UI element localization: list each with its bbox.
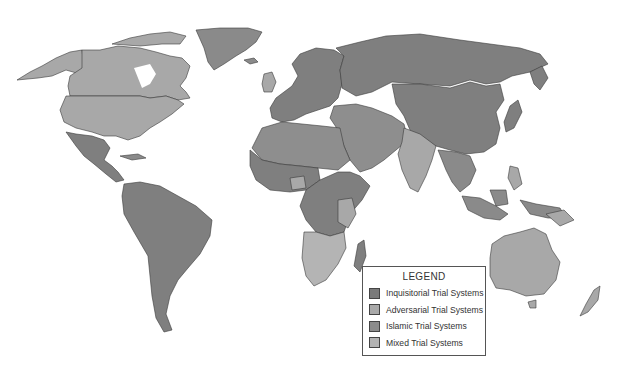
legend-item-islamic: Islamic Trial Systems (369, 318, 479, 335)
region-nigeria (290, 176, 306, 190)
region-southeast-asia (438, 150, 476, 192)
region-australia (490, 228, 560, 296)
legend-item-adversarial: Adversarial Trial Systems (369, 302, 479, 319)
region-united-kingdom (262, 72, 276, 92)
world-map (0, 0, 641, 369)
legend-label: Adversarial Trial Systems (386, 305, 483, 315)
legend-box: LEGEND Inquisitorial Trial Systems Adver… (362, 266, 486, 356)
region-south-america (122, 182, 212, 332)
region-philippines (508, 166, 522, 190)
legend-label: Islamic Trial Systems (386, 321, 467, 331)
region-united-states (60, 96, 184, 140)
swatch-islamic (369, 321, 380, 332)
legend-label: Mixed Trial Systems (386, 338, 463, 348)
region-japan (504, 100, 522, 132)
legend-item-inquisitorial: Inquisitorial Trial Systems (369, 285, 479, 302)
legend-label: Inquisitorial Trial Systems (386, 288, 483, 298)
region-iceland (244, 58, 258, 64)
region-canada (68, 46, 190, 100)
region-caribbean (120, 154, 146, 160)
swatch-mixed (369, 337, 380, 348)
legend-item-mixed: Mixed Trial Systems (369, 335, 479, 352)
swatch-adversarial (369, 304, 380, 315)
region-arctic-islands (112, 32, 186, 46)
region-new-zealand (580, 286, 600, 316)
swatch-inquisitorial (369, 288, 380, 299)
region-east-africa (338, 198, 356, 228)
region-southern-africa (302, 232, 346, 286)
region-mexico-central-america (66, 132, 124, 182)
legend-title: LEGEND (369, 271, 479, 282)
region-tasmania (528, 300, 536, 308)
